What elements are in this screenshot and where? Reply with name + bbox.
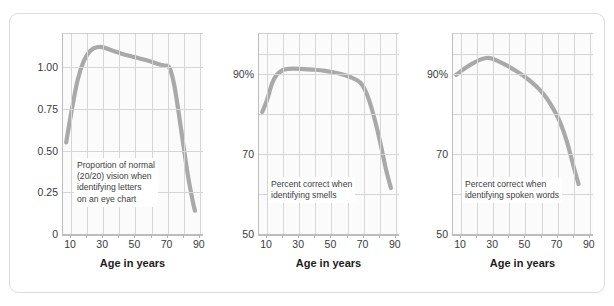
data-line-hearing bbox=[456, 58, 578, 184]
gridline-horizontal bbox=[63, 151, 203, 152]
x-axis-tick-mark bbox=[282, 235, 283, 238]
gridline-horizontal bbox=[259, 114, 399, 115]
y-axis-tick-label: 50 bbox=[242, 228, 254, 240]
data-line-smell bbox=[262, 69, 391, 188]
annotation-vision: Proportion of normal (20/20) vision when… bbox=[74, 158, 158, 207]
y-axis-tick-label: 70 bbox=[242, 148, 254, 160]
x-axis-title-hearing: Age in years bbox=[452, 257, 593, 269]
y-axis-tick-label: 0.25 bbox=[38, 186, 58, 198]
gridline-horizontal bbox=[259, 74, 399, 75]
x-axis-tick-mark bbox=[70, 235, 71, 238]
gridline-vertical bbox=[71, 34, 72, 234]
x-axis-tick-mark bbox=[460, 235, 461, 238]
gridline-vertical bbox=[348, 34, 349, 234]
x-axis-tick-mark bbox=[118, 235, 119, 238]
gridline-vertical bbox=[509, 34, 510, 234]
gridline-vertical bbox=[331, 34, 332, 234]
x-axis-title-smell: Age in years bbox=[258, 257, 399, 269]
x-axis-tick-mark bbox=[557, 235, 558, 238]
x-axis-tick-mark bbox=[492, 235, 493, 238]
x-axis-tick-mark bbox=[199, 235, 200, 238]
y-axis-tick-label: 0.50 bbox=[38, 145, 58, 157]
gridline-horizontal bbox=[259, 154, 399, 155]
gridline-vertical bbox=[299, 34, 300, 234]
gridline-vertical bbox=[200, 34, 201, 234]
gridline-vertical bbox=[493, 34, 494, 234]
x-axis-tick-label: 30 bbox=[292, 238, 304, 250]
gridline-vertical bbox=[477, 34, 478, 234]
x-axis-tick-mark bbox=[151, 235, 152, 238]
gridline-horizontal bbox=[259, 54, 399, 55]
x-axis-tick-mark bbox=[347, 235, 348, 238]
gridline-vertical bbox=[168, 34, 169, 234]
plot-area-hearing: 507090% bbox=[452, 34, 593, 234]
x-axis-tick-mark bbox=[379, 235, 380, 238]
gridline-vertical bbox=[315, 34, 316, 234]
x-axis-tick-label: 10 bbox=[454, 238, 466, 250]
x-axis-tick-mark bbox=[589, 235, 590, 238]
x-axis-tick-label: 30 bbox=[486, 238, 498, 250]
annotation-hearing: Percent correct when identifying spoken … bbox=[462, 177, 562, 203]
y-axis-tick-label: 0 bbox=[52, 228, 58, 240]
x-axis-tick-label: 10 bbox=[260, 238, 272, 250]
x-axis-tick-label: 90 bbox=[389, 238, 401, 250]
gridline-horizontal bbox=[63, 109, 203, 110]
x-axis-tick-mark bbox=[573, 235, 574, 238]
x-axis-tick-mark bbox=[266, 235, 267, 238]
plot-area-smell: 507090% bbox=[258, 34, 399, 234]
x-axis-tick-label: 90 bbox=[193, 238, 205, 250]
gridline-horizontal bbox=[453, 114, 593, 115]
curve-smell bbox=[259, 34, 399, 234]
x-axis-tick-label: 10 bbox=[64, 238, 76, 250]
y-axis-tick-label: 1.00 bbox=[38, 61, 58, 73]
y-axis-tick-label: 90% bbox=[427, 68, 448, 80]
x-axis-tick-mark bbox=[183, 235, 184, 238]
x-axis-tick-mark bbox=[524, 235, 525, 238]
x-axis-tick-mark bbox=[395, 235, 396, 238]
gridline-vertical bbox=[558, 34, 559, 234]
y-axis-tick-label: 70 bbox=[436, 148, 448, 160]
gridline-vertical bbox=[542, 34, 543, 234]
y-axis-tick-label: 0.75 bbox=[38, 103, 58, 115]
panel-hearing: 507090% Age in years 1030507090 bbox=[414, 14, 613, 294]
x-axis-tick-mark bbox=[508, 235, 509, 238]
panel-vision: 00.250.500.751.00 Age in years 103050709… bbox=[24, 14, 223, 294]
x-axis-tick-mark bbox=[314, 235, 315, 238]
x-axis-tick-mark bbox=[298, 235, 299, 238]
annotation-smell: Percent correct when identifying smells bbox=[268, 177, 355, 203]
y-axis-tick-label: 90% bbox=[233, 68, 254, 80]
x-axis-tick-label: 50 bbox=[519, 238, 531, 250]
panel-smell: 507090% Age in years 1030507090 bbox=[220, 14, 419, 294]
gridline-vertical bbox=[267, 34, 268, 234]
gridline-vertical bbox=[380, 34, 381, 234]
x-axis-tick-label: 50 bbox=[325, 238, 337, 250]
y-axis-tick-label: 50 bbox=[436, 228, 448, 240]
gridline-vertical bbox=[396, 34, 397, 234]
gridline-vertical bbox=[525, 34, 526, 234]
x-axis-tick-label: 70 bbox=[161, 238, 173, 250]
gridline-horizontal bbox=[453, 154, 593, 155]
gridline-vertical bbox=[184, 34, 185, 234]
x-axis-tick-mark bbox=[476, 235, 477, 238]
x-axis-tick-mark bbox=[330, 235, 331, 238]
x-axis-tick-mark bbox=[541, 235, 542, 238]
gridline-vertical bbox=[574, 34, 575, 234]
gridline-horizontal bbox=[453, 74, 593, 75]
curve-hearing bbox=[453, 34, 593, 234]
x-axis-tick-label: 70 bbox=[357, 238, 369, 250]
gridline-vertical bbox=[364, 34, 365, 234]
gridline-horizontal bbox=[63, 67, 203, 68]
x-axis-tick-mark bbox=[86, 235, 87, 238]
x-axis-tick-mark bbox=[102, 235, 103, 238]
x-axis-tick-label: 50 bbox=[129, 238, 141, 250]
x-axis-tick-mark bbox=[363, 235, 364, 238]
x-axis-tick-label: 30 bbox=[96, 238, 108, 250]
gridline-vertical bbox=[461, 34, 462, 234]
gridline-vertical bbox=[590, 34, 591, 234]
x-axis-tick-mark bbox=[167, 235, 168, 238]
figure-frame: 00.250.500.751.00 Age in years 103050709… bbox=[9, 13, 605, 293]
x-axis-tick-mark bbox=[134, 235, 135, 238]
x-axis-tick-label: 70 bbox=[551, 238, 563, 250]
x-axis-title-vision: Age in years bbox=[62, 257, 203, 269]
gridline-vertical bbox=[283, 34, 284, 234]
